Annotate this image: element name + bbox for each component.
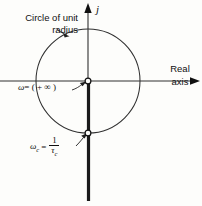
imaginary-axis-arrowhead <box>84 3 91 13</box>
omega-c-label: ωc = 1 τc <box>30 136 59 157</box>
origin-marker-open-circle <box>85 78 91 84</box>
omega-c-symbol-group: ωc <box>30 141 39 153</box>
omega-infinity-leader <box>72 82 87 90</box>
omega-infinity-value: = ( + ∞ ) <box>24 82 56 92</box>
omega-infinity-label: ω= ( + ∞ ) <box>18 82 56 92</box>
nyquist-plot-figure: Circle of unit radius Real axis j ω= ( +… <box>0 0 202 206</box>
imaginary-axis-label: j <box>96 3 99 15</box>
omega-c-equals: = <box>41 142 46 152</box>
real-axis-label-line1: Real <box>160 63 200 76</box>
omega-c-fraction: 1 τc <box>49 136 59 157</box>
omega-c-marker-open-circle <box>85 130 91 136</box>
circle-caption-label: Circle of unit radius <box>6 12 78 36</box>
omega-c-numerator: 1 <box>50 136 59 145</box>
real-axis-label: Real axis <box>160 63 200 89</box>
omega-c-denominator: τc <box>49 146 59 157</box>
real-axis-label-line2: axis <box>160 76 200 89</box>
tau-subscript: c <box>55 150 58 157</box>
omega-c-subscript: c <box>36 145 39 152</box>
